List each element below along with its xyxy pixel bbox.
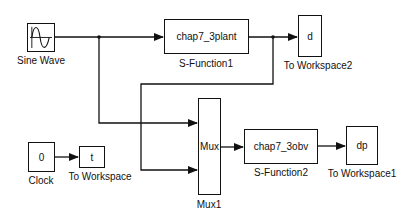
branch-point-sine <box>97 35 101 39</box>
clock-block[interactable]: 0 <box>28 142 55 172</box>
observer-s-function-block[interactable]: chap7_3obv <box>244 129 318 164</box>
sine-wave-icon <box>30 26 52 49</box>
plant-s-function-block[interactable]: chap7_3plant <box>164 19 249 54</box>
to-workspace1-label: To Workspace1 <box>328 168 397 179</box>
clock-label: Clock <box>28 175 53 186</box>
sine-wave-block[interactable] <box>27 23 55 52</box>
sine-wave-label: Sine Wave <box>17 55 65 66</box>
to-workspace2-block[interactable]: d <box>298 15 322 57</box>
plant-s-function-label: S-Function1 <box>179 58 233 69</box>
to-workspace2-label: To Workspace2 <box>284 60 353 71</box>
mux-label: Mux1 <box>197 199 221 210</box>
branch-point-plant <box>271 35 275 39</box>
mux-block[interactable]: Mux <box>198 98 221 195</box>
to-workspace-label: To Workspace <box>68 171 131 182</box>
to-workspace1-block[interactable]: dp <box>346 126 378 165</box>
observer-s-function-label: S-Function2 <box>254 167 308 178</box>
to-workspace-block[interactable]: t <box>79 146 105 168</box>
